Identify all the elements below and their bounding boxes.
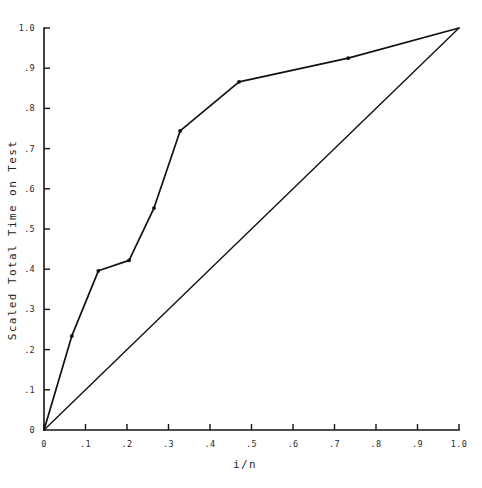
chart-canvas: 0.1.2.3.4.5.6.7.8.91.0 0.1.2.3.4.5.6.7.8…: [0, 0, 482, 488]
x-tick-label: .8: [371, 439, 382, 449]
x-tick-label: .4: [205, 439, 216, 449]
x-tick-label: .2: [122, 439, 133, 449]
y-axis-ticks: [44, 28, 50, 390]
scaled-ttt-markers: [70, 56, 350, 338]
y-tick-label: .6: [24, 184, 35, 194]
data-point-marker: [152, 206, 156, 210]
x-tick-label: 1.0: [451, 439, 467, 449]
ttt-plot-figure: 0.1.2.3.4.5.6.7.8.91.0 0.1.2.3.4.5.6.7.8…: [0, 0, 482, 488]
data-point-marker: [237, 80, 241, 84]
y-tick-label: .8: [24, 103, 35, 113]
y-tick-label: .7: [24, 144, 35, 154]
reference-diagonal-line: [44, 28, 459, 430]
y-tick-label: .3: [24, 304, 35, 314]
y-axis: 0.1.2.3.4.5.6.7.8.91.0: [19, 23, 50, 435]
x-axis-ticks: [44, 424, 459, 430]
x-tick-label: .9: [412, 439, 423, 449]
data-point-marker: [127, 258, 131, 262]
y-axis-tick-labels: 0.1.2.3.4.5.6.7.8.91.0: [19, 23, 35, 435]
x-tick-label: .7: [329, 439, 340, 449]
data-point-marker: [346, 56, 350, 60]
x-tick-label: .1: [80, 439, 91, 449]
y-tick-label: 1.0: [19, 23, 35, 33]
y-axis-title: Scaled Total Time on Test: [6, 140, 19, 341]
data-point-marker: [96, 269, 100, 273]
y-tick-label: .9: [24, 63, 35, 73]
y-tick-label: .2: [24, 345, 35, 355]
y-tick-label: 0: [30, 425, 35, 435]
data-point-marker: [178, 129, 182, 133]
x-axis-title: i/n: [233, 458, 257, 471]
y-tick-label: .1: [24, 385, 35, 395]
x-axis-tick-labels: 0.1.2.3.4.5.6.7.8.91.0: [41, 439, 467, 449]
x-tick-label: .5: [246, 439, 257, 449]
x-tick-label: .6: [288, 439, 299, 449]
x-axis: 0.1.2.3.4.5.6.7.8.91.0: [41, 424, 467, 449]
x-tick-label: 0: [41, 439, 46, 449]
data-point-marker: [70, 334, 74, 338]
y-tick-label: .5: [24, 224, 35, 234]
y-tick-label: .4: [24, 264, 35, 274]
plot-series-group: [44, 28, 459, 430]
x-tick-label: .3: [163, 439, 174, 449]
